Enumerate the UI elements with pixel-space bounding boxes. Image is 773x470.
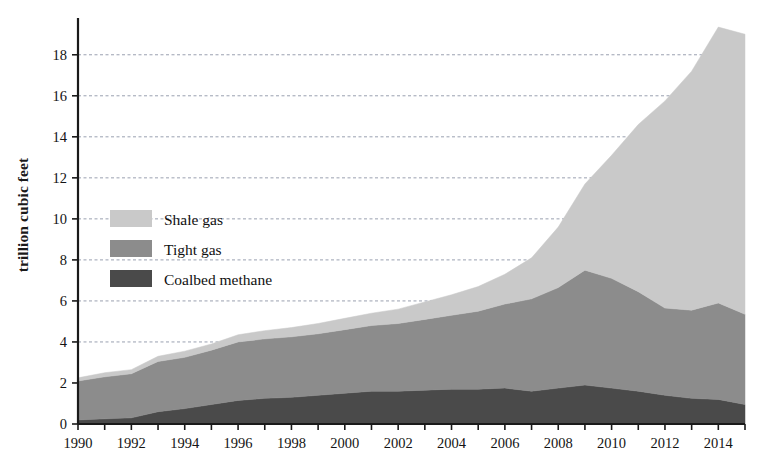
y-tick-label: 14: [53, 129, 68, 145]
legend-swatch: [110, 210, 152, 227]
chart-container: trillion cubic feet 024681012141618 1990…: [0, 0, 773, 470]
y-tick-label: 18: [53, 47, 68, 63]
legend-swatch: [110, 270, 152, 287]
x-tick-label: 1992: [117, 435, 146, 451]
y-tick-label: 6: [60, 293, 67, 309]
y-tick-label: 8: [60, 252, 67, 268]
y-tick-label: 2: [60, 375, 67, 391]
y-tick-label: 10: [53, 211, 68, 227]
legend-label: Tight gas: [164, 241, 222, 258]
x-axis-ticks: 1990199219941996199820002002200420062008…: [64, 424, 746, 451]
x-tick-label: 1990: [64, 435, 93, 451]
x-tick-label: 2002: [384, 435, 413, 451]
legend-label: Coalbed methane: [164, 271, 272, 288]
x-tick-label: 1994: [170, 435, 200, 451]
y-tick-label: 0: [60, 416, 67, 432]
x-tick-label: 2014: [704, 435, 734, 451]
x-tick-label: 2004: [437, 435, 467, 451]
x-tick-label: 2010: [597, 435, 626, 451]
y-tick-label: 4: [60, 334, 68, 350]
y-tick-label: 12: [53, 170, 68, 186]
legend-label: Shale gas: [164, 211, 223, 228]
x-tick-label: 2008: [544, 435, 573, 451]
x-tick-label: 1998: [277, 435, 306, 451]
x-tick-label: 1996: [224, 435, 253, 451]
x-tick-label: 2006: [490, 435, 519, 451]
x-tick-label: 2012: [650, 435, 679, 451]
x-tick-label: 2000: [330, 435, 359, 451]
y-axis-ticks: 024681012141618: [53, 47, 79, 432]
chart-legend: Shale gasTight gasCoalbed methane: [110, 210, 272, 288]
stacked-area-chart: 024681012141618 199019921994199619982000…: [0, 0, 773, 470]
legend-swatch: [110, 240, 152, 257]
y-tick-label: 16: [53, 88, 68, 104]
